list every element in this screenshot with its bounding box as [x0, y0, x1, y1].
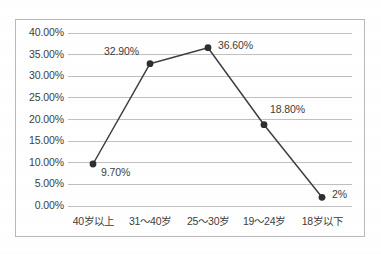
- x-axis-tick-label: 18岁以下: [291, 215, 353, 227]
- data-point-marker: [147, 60, 154, 67]
- data-point-label: 2%: [332, 189, 347, 200]
- y-axis-tick-label: 0.00%: [18, 200, 64, 211]
- y-axis-tick-label: 5.00%: [18, 178, 64, 189]
- y-axis-tick-label: 30.00%: [18, 70, 64, 81]
- x-axis-tick-label: 31～40岁: [119, 215, 181, 227]
- gridlines: [68, 33, 352, 206]
- y-axis-tick-label: 20.00%: [18, 114, 64, 125]
- data-point-marker: [90, 161, 97, 168]
- y-axis-tick-label: 40.00%: [18, 27, 64, 38]
- data-point-label: 9.70%: [101, 167, 130, 178]
- x-axis-tick-label: 40岁以上: [62, 215, 124, 227]
- data-point-label: 18.80%: [270, 104, 305, 115]
- y-axis-tick-label: 25.00%: [18, 92, 64, 103]
- data-point-marker: [205, 44, 212, 51]
- x-axis-tick-label: 25～30岁: [177, 215, 239, 227]
- data-point-label: 36.60%: [218, 40, 253, 51]
- data-point-label: 32.90%: [104, 46, 139, 57]
- y-axis-tick-label: 35.00%: [18, 49, 64, 60]
- y-axis-tick-label: 15.00%: [18, 135, 64, 146]
- data-point-marker: [319, 194, 326, 201]
- x-axis-tick-label: 19～24岁: [233, 215, 295, 227]
- data-point-marker: [261, 121, 268, 128]
- y-axis-tick-label: 10.00%: [18, 157, 64, 168]
